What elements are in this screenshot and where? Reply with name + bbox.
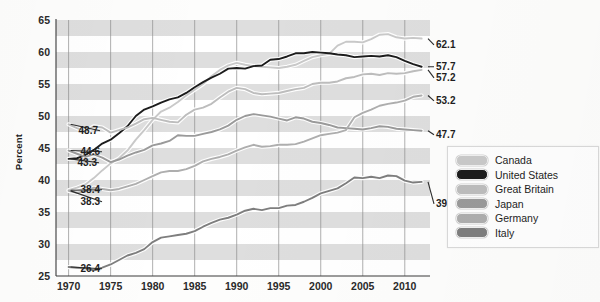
legend-item-label: Canada [495,154,532,166]
legend-swatch-icon [456,198,488,209]
legend-item-label: Italy [495,227,514,239]
y-tick-label: 55 [38,78,50,90]
y-axis-title: Percent [13,133,24,170]
legend-item-germany[interactable]: Germany [450,211,590,226]
legend-swatch-icon [456,184,488,195]
x-tick-label: 2010 [393,280,417,292]
x-tick-label: 1985 [183,280,207,292]
x-tick-label: 1980 [141,280,165,292]
end-value-great-britain: 57.2 [436,72,456,83]
band [56,20,430,36]
legend-item-japan[interactable]: Japan [450,197,590,212]
band [56,84,430,100]
y-tick-label: 35 [38,206,50,218]
y-tick-label: 25 [38,270,50,282]
end-value-canada: 62.1 [436,39,456,50]
x-tick-label: 1995 [267,280,291,292]
start-value-japan: 44.6 [81,146,101,157]
legend-item-label: Japan [495,198,524,210]
end-value-united-states: 57.7 [436,61,456,72]
legend-item-italy[interactable]: Italy [450,226,590,241]
chart-legend: CanadaUnited StatesGreat BritainJapanGer… [447,146,599,248]
x-tick-label: 2000 [309,280,333,292]
x-tick-label: 1990 [225,280,249,292]
legend-item-united-states[interactable]: United States [450,168,590,183]
y-tick-label: 30 [38,238,50,250]
legend-item-great-britain[interactable]: Great Britain [450,182,590,197]
x-tick-label: 1970 [57,280,81,292]
y-tick-label: 40 [38,174,50,186]
start-value-germany: 38.3 [81,196,101,207]
legend-swatch-icon [456,169,488,180]
legend-item-canada[interactable]: Canada [450,153,590,168]
end-value-japan: 47.7 [436,129,456,140]
legend-swatch-icon [456,213,488,224]
start-value-canada: 38.4 [81,184,101,195]
y-tick-label: 60 [38,46,50,58]
band [56,244,430,260]
start-value-united-states: 43.3 [78,157,98,168]
y-tick-label: 65 [38,14,50,26]
end-value-germany: 53.2 [436,95,456,106]
legend-item-label: Great Britain [495,183,554,195]
start-value-great-britain: 48.7 [79,125,99,136]
y-tick-label: 45 [38,142,50,154]
legend-item-label: Germany [495,212,538,224]
x-tick-label: 2005 [351,280,375,292]
start-value-italy: 26.4 [81,263,101,274]
x-tick-labels: 197019751980198519901995200020052010 [57,280,417,292]
legend-swatch-icon [456,155,488,166]
legend-swatch-icon [456,227,488,238]
band [56,212,430,228]
y-tick-label: 50 [38,110,50,122]
legend-item-label: United States [495,169,558,181]
y-tick-labels: 253035404550556065 [38,14,50,282]
x-tick-label: 1975 [99,280,123,292]
chart-container: 2530354045505560651970197519801985199019… [0,0,600,302]
